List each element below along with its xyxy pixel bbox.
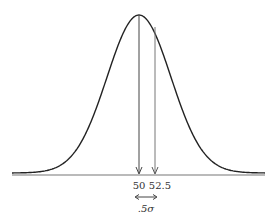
marker-52-5	[152, 27, 158, 174]
label-half-sigma: .5σ	[138, 203, 156, 214]
normal-curve-diagram: 50 52.5 .5σ	[0, 0, 273, 224]
label-52-5: 52.5	[149, 180, 171, 191]
interval-double-arrow-icon	[135, 195, 157, 200]
label-50: 50	[133, 180, 146, 191]
marker-mean	[136, 15, 142, 174]
